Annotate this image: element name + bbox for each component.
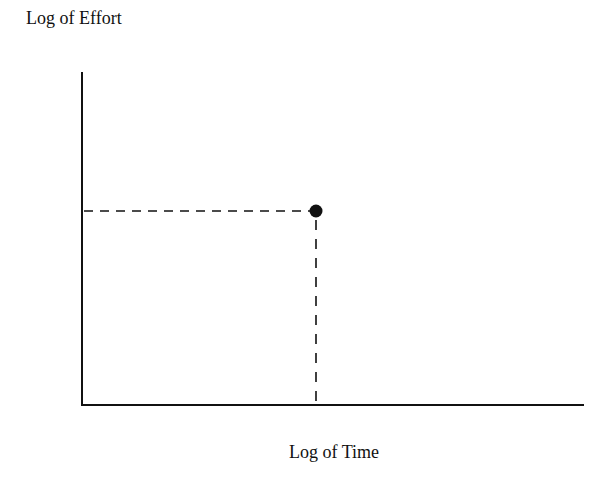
data-point — [310, 205, 323, 218]
plot-area — [0, 0, 616, 485]
